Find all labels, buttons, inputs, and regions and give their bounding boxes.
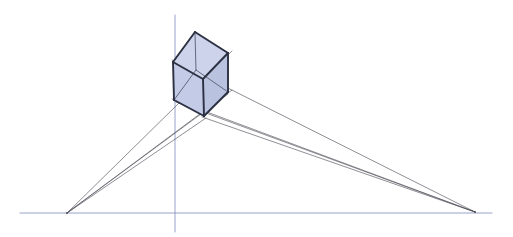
guide-lines — [20, 15, 492, 232]
ray-right-to-bottom-front — [202, 117, 475, 212]
edge-vertical-front — [203, 79, 204, 116]
cube — [173, 32, 228, 116]
perspective-drawing-canvas — [0, 0, 513, 237]
edge-vertical-left — [173, 62, 174, 100]
ray-right-to-bottom-back — [176, 102, 475, 212]
ray-left-to-bottom-front — [67, 118, 206, 213]
right-vanishing-point — [474, 211, 476, 213]
left-vanishing-point — [66, 212, 68, 214]
perspective-drawing — [0, 0, 513, 237]
